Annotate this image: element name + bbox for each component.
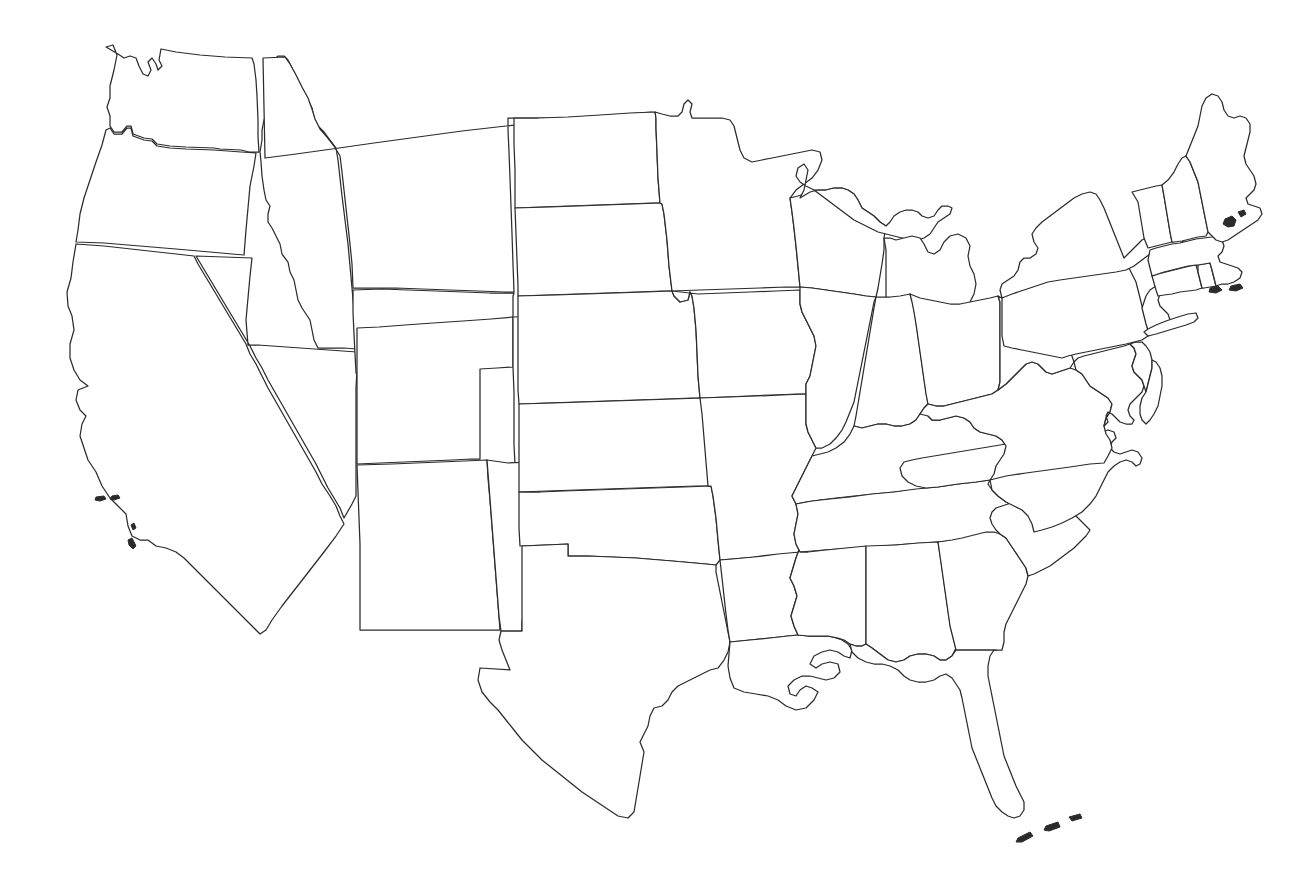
state-nebraska[interactable]: [518, 291, 700, 404]
state-arkansas[interactable]: [720, 550, 800, 642]
us-outline-map: [0, 0, 1306, 882]
state-north-dakota[interactable]: [514, 112, 660, 208]
state-arizona[interactable]: [357, 460, 500, 630]
us-states-svg: [0, 0, 1306, 882]
state-mississippi[interactable]: [790, 546, 866, 646]
state-kansas[interactable]: [519, 398, 710, 492]
state-south-dakota[interactable]: [515, 203, 672, 296]
